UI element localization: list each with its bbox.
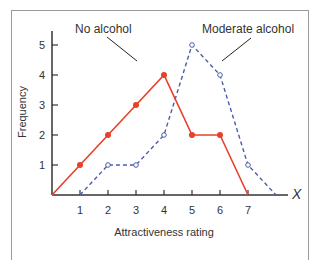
x-tick-label: 7 bbox=[245, 204, 251, 216]
y-tick-labels: 1 2 3 4 5 bbox=[39, 39, 45, 171]
series-no-alcohol bbox=[52, 72, 248, 195]
annotation-no-alcohol: No alcohol bbox=[75, 22, 132, 36]
y-tick-label: 1 bbox=[39, 159, 45, 171]
data-point bbox=[162, 133, 167, 138]
x-tick-label: 3 bbox=[133, 204, 139, 216]
x-tick-label: 2 bbox=[105, 204, 111, 216]
y-tick-label: 5 bbox=[39, 39, 45, 51]
y-ticks bbox=[52, 45, 58, 165]
x-tick-label: 5 bbox=[189, 204, 195, 216]
data-point bbox=[105, 132, 111, 138]
y-axis-title: Frequency bbox=[16, 86, 28, 138]
y-tick-label: 4 bbox=[39, 69, 45, 81]
data-point bbox=[106, 163, 111, 168]
series-moderate-alcohol bbox=[80, 43, 276, 195]
annotation-moderate-alcohol: Moderate alcohol bbox=[202, 22, 294, 36]
y-tick-label: 3 bbox=[39, 99, 45, 111]
data-point bbox=[189, 132, 195, 138]
data-point bbox=[218, 73, 223, 78]
data-point bbox=[246, 163, 251, 168]
x-axis-title: Attractiveness rating bbox=[114, 226, 214, 238]
x-tick-label: 4 bbox=[161, 204, 167, 216]
data-point bbox=[77, 162, 83, 168]
x-axis-end-label: X bbox=[291, 186, 302, 202]
x-tick-labels: 1 2 3 4 5 6 7 bbox=[77, 204, 251, 216]
x-tick-label: 1 bbox=[77, 204, 83, 216]
data-point bbox=[190, 43, 195, 48]
data-point bbox=[133, 102, 139, 108]
y-tick-label: 2 bbox=[39, 129, 45, 141]
data-point bbox=[217, 132, 223, 138]
annotation-leader-no-alcohol bbox=[107, 37, 137, 61]
x-tick-label: 6 bbox=[217, 204, 223, 216]
annotation-leader-moderate-alcohol bbox=[222, 38, 251, 61]
data-point bbox=[161, 72, 167, 78]
data-point bbox=[134, 163, 139, 168]
